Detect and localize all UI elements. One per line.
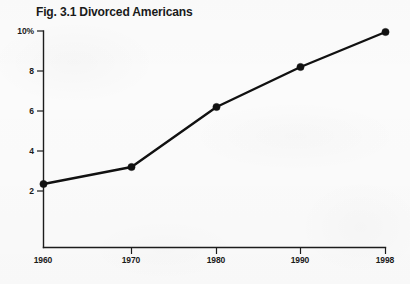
data-point-1980 [213,103,220,110]
y-axis-tick-labels: 10% 8 6 4 2 [17,26,34,196]
x-tick-marks [132,248,386,255]
y-tick-marks [37,31,44,191]
data-point-1970 [128,163,135,170]
x-tick-label-1970: 1970 [122,255,141,265]
y-tick-label-8: 8 [29,66,34,76]
x-tick-label-1960: 1960 [34,255,53,265]
figure-container: Fig. 3.1 Divorced Americans 10% 8 6 4 2 [0,0,410,284]
x-tick-label-1990: 1990 [291,255,310,265]
line-chart-plot: 10% 8 6 4 2 1960 1970 1980 1990 1998 [0,0,410,284]
x-axis-tick-labels: 1960 1970 1980 1990 1998 [34,255,395,265]
data-point-1960 [40,180,47,187]
x-tick-label-1980: 1980 [207,255,226,265]
data-point-1998 [382,28,389,35]
y-tick-label-4: 4 [29,146,34,156]
y-tick-label-6: 6 [29,106,34,116]
data-point-1990 [297,63,304,70]
x-tick-label-1998: 1998 [376,255,395,265]
y-tick-label-2: 2 [29,186,34,196]
y-tick-label-10: 10% [17,26,34,36]
